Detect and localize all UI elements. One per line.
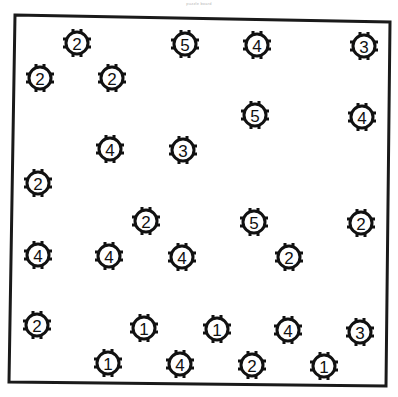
marker-number: 4 — [177, 249, 186, 268]
number-marker[interactable]: 1 — [130, 314, 158, 342]
number-marker[interactable]: 2 — [347, 209, 375, 237]
marker-number: 4 — [104, 248, 113, 267]
number-marker[interactable]: 3 — [346, 318, 374, 346]
number-marker[interactable]: 2 — [63, 29, 91, 57]
puzzle-board: 254322544322524442211431421 — [0, 0, 398, 397]
marker-number: 2 — [107, 70, 116, 89]
markers-layer: 254322544322524442211431421 — [23, 29, 378, 380]
marker-number: 5 — [249, 214, 258, 233]
marker-number: 4 — [252, 37, 261, 56]
number-marker[interactable]: 4 — [168, 243, 196, 271]
number-marker[interactable]: 2 — [98, 64, 126, 92]
marker-number: 4 — [175, 356, 184, 375]
number-marker[interactable]: 3 — [350, 32, 378, 60]
number-marker[interactable]: 5 — [241, 101, 269, 129]
number-marker[interactable]: 5 — [171, 30, 199, 58]
number-marker[interactable]: 2 — [132, 207, 160, 235]
marker-number: 4 — [283, 322, 292, 341]
number-marker[interactable]: 2 — [238, 351, 266, 379]
number-marker[interactable]: 4 — [166, 350, 194, 378]
marker-number: 4 — [357, 109, 366, 128]
marker-number: 2 — [32, 317, 41, 336]
marker-number: 2 — [35, 70, 44, 89]
marker-number: 5 — [180, 36, 189, 55]
number-marker[interactable]: 2 — [24, 169, 52, 197]
number-marker[interactable]: 3 — [169, 136, 197, 164]
marker-number: 4 — [33, 247, 42, 266]
number-marker[interactable]: 1 — [94, 349, 122, 377]
number-marker[interactable]: 1 — [310, 352, 338, 380]
number-marker[interactable]: 1 — [203, 315, 231, 343]
marker-number: 2 — [33, 175, 42, 194]
marker-number: 2 — [356, 215, 365, 234]
marker-number: 1 — [212, 321, 221, 340]
number-marker[interactable]: 4 — [243, 31, 271, 59]
number-marker[interactable]: 2 — [23, 311, 51, 339]
number-marker[interactable]: 4 — [24, 241, 52, 269]
marker-number: 2 — [141, 213, 150, 232]
number-marker[interactable]: 5 — [240, 208, 268, 236]
marker-number: 4 — [105, 141, 114, 160]
marker-number: 1 — [319, 358, 328, 377]
number-marker[interactable]: 2 — [26, 64, 54, 92]
marker-number: 2 — [284, 249, 293, 268]
marker-number: 5 — [250, 107, 259, 126]
number-marker[interactable]: 4 — [348, 103, 376, 131]
marker-number: 3 — [178, 142, 187, 161]
number-marker[interactable]: 4 — [95, 242, 123, 270]
number-marker[interactable]: 4 — [96, 135, 124, 163]
marker-number: 2 — [247, 357, 256, 376]
board-frame — [9, 15, 390, 386]
marker-number: 3 — [359, 38, 368, 57]
marker-number: 1 — [139, 320, 148, 339]
number-marker[interactable]: 2 — [275, 243, 303, 271]
marker-number: 3 — [355, 324, 364, 343]
marker-number: 2 — [72, 35, 81, 54]
number-marker[interactable]: 4 — [274, 316, 302, 344]
marker-number: 1 — [103, 355, 112, 374]
